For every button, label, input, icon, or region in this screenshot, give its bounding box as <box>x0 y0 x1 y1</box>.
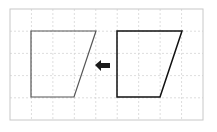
diagram-canvas <box>0 0 217 132</box>
left-arrow-icon <box>95 60 110 71</box>
left-trapezoid <box>31 31 96 97</box>
right-trapezoid <box>117 31 182 97</box>
